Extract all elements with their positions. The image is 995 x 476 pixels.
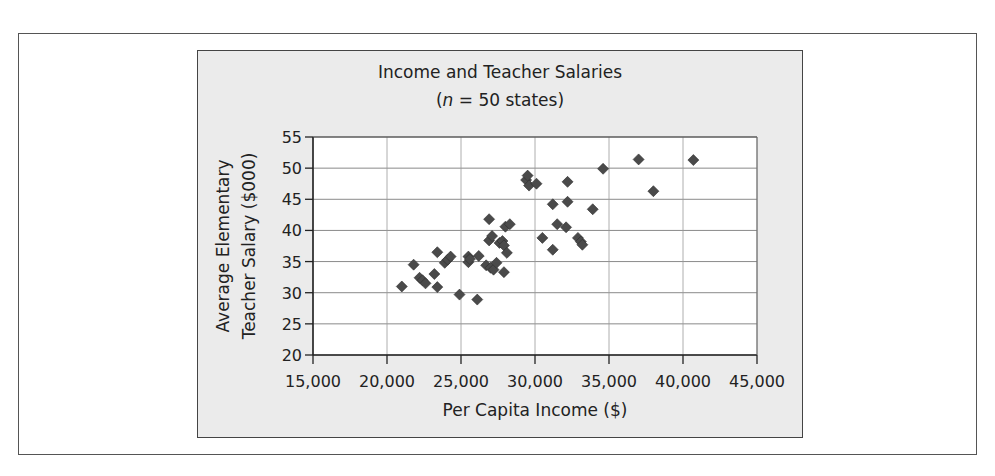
x-tick-label: 45,000 xyxy=(729,372,785,391)
y-tick-label: 55 xyxy=(282,128,302,147)
y-tick-label: 40 xyxy=(282,221,302,240)
x-tick-label: 15,000 xyxy=(285,372,341,391)
y-tick-label: 45 xyxy=(282,190,302,209)
x-tick-label: 25,000 xyxy=(433,372,489,391)
x-tick-label: 35,000 xyxy=(581,372,637,391)
y-tick-label: 50 xyxy=(282,159,302,178)
x-tick-label: 30,000 xyxy=(507,372,563,391)
x-tick-label: 40,000 xyxy=(655,372,711,391)
scatter-plot: 202530354045505515,00020,00025,00030,000… xyxy=(0,0,995,476)
y-tick-label: 20 xyxy=(282,346,302,365)
x-tick-label: 20,000 xyxy=(359,372,415,391)
y-tick-label: 35 xyxy=(282,253,302,272)
y-tick-label: 25 xyxy=(282,315,302,334)
y-tick-label: 30 xyxy=(282,284,302,303)
